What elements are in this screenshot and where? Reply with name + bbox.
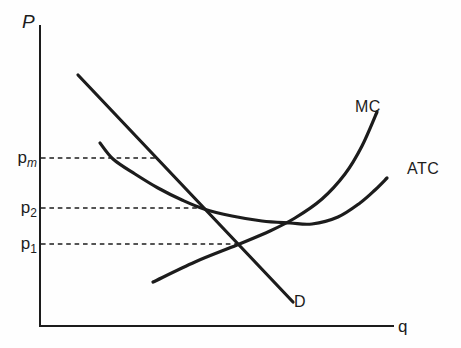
curve-label-d: D bbox=[294, 294, 306, 310]
curve-label-mc: MC bbox=[355, 99, 381, 115]
price-label-p2-sub: 2 bbox=[30, 206, 37, 220]
price-label-pm-sub: m bbox=[27, 156, 37, 170]
price-label-pm: pm bbox=[0, 149, 37, 166]
economics-cost-demand-figure: P q D ATC MC pm p2 p1 bbox=[0, 0, 461, 348]
y-axis-label: P bbox=[22, 12, 35, 31]
price-label-p1: p1 bbox=[0, 235, 37, 252]
price-label-p2: p2 bbox=[0, 199, 37, 216]
curve-mc bbox=[153, 112, 377, 282]
price-label-p2-base: p bbox=[21, 198, 30, 217]
price-label-p1-base: p bbox=[21, 234, 30, 253]
curve-atc bbox=[100, 143, 387, 224]
price-label-p1-sub: 1 bbox=[30, 242, 37, 256]
price-label-pm-base: p bbox=[18, 148, 27, 167]
plot-canvas bbox=[0, 0, 461, 348]
curve-label-atc: ATC bbox=[407, 161, 439, 177]
x-axis-label: q bbox=[398, 318, 407, 335]
